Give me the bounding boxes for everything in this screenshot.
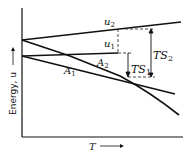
svg-text:T: T bbox=[89, 141, 97, 152]
label-TS1: TS1 bbox=[131, 63, 151, 77]
label-TS2: TS2 bbox=[153, 49, 173, 63]
label-u2: u2 bbox=[104, 16, 115, 29]
curve-u2 bbox=[22, 22, 181, 40]
svg-text:Energy, u: Energy, u bbox=[8, 72, 18, 115]
arrow-TS1 bbox=[126, 53, 130, 77]
x-axis-label: T bbox=[89, 141, 124, 152]
label-A2: A2 bbox=[96, 57, 109, 70]
energy-diagram: u2 u1 A2 A1 TS2 TS1 Energy, u T bbox=[0, 0, 194, 159]
y-axis-label: Energy, u bbox=[8, 47, 18, 115]
label-A1: A1 bbox=[63, 65, 76, 78]
label-u1: u1 bbox=[104, 38, 115, 51]
